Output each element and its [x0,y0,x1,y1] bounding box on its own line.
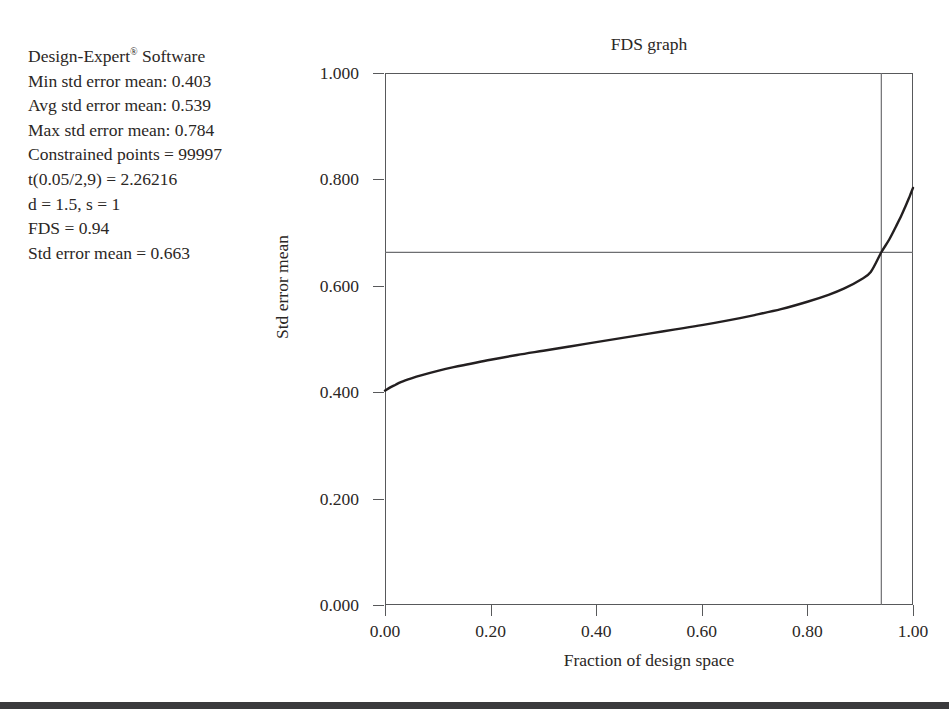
y-tick-label: 0.800 [281,169,359,190]
x-tick-mark [913,605,914,616]
x-tick-label: 0.40 [551,621,641,642]
fds-chart: FDS graph 0.0000.2000.4000.6000.8001.000… [0,0,949,690]
x-tick-label: 0.80 [762,621,852,642]
y-tick-mark [373,605,384,606]
x-axis-title: Fraction of design space [385,650,913,671]
x-tick-mark [385,605,386,616]
y-tick-mark [373,73,384,74]
x-tick-label: 0.00 [340,621,430,642]
y-tick-mark [373,286,384,287]
x-tick-label: 0.20 [446,621,536,642]
y-tick-mark [373,392,384,393]
y-tick-mark [373,179,384,180]
x-tick-mark [702,605,703,616]
x-tick-mark [596,605,597,616]
y-tick-label: 1.000 [281,63,359,84]
x-tick-mark [491,605,492,616]
chart-title: FDS graph [385,34,913,55]
x-tick-label: 0.60 [657,621,747,642]
y-tick-label: 0.000 [281,595,359,616]
plot-canvas [385,73,913,605]
bottom-divider-rule [0,702,949,709]
fds-curve [385,188,913,391]
y-tick-label: 0.400 [281,382,359,403]
x-tick-mark [807,605,808,616]
reference-lines [385,73,913,605]
y-axis-title: Std error mean [272,235,293,339]
x-tick-label: 1.00 [868,621,949,642]
y-tick-label: 0.200 [281,488,359,509]
y-tick-mark [373,499,384,500]
